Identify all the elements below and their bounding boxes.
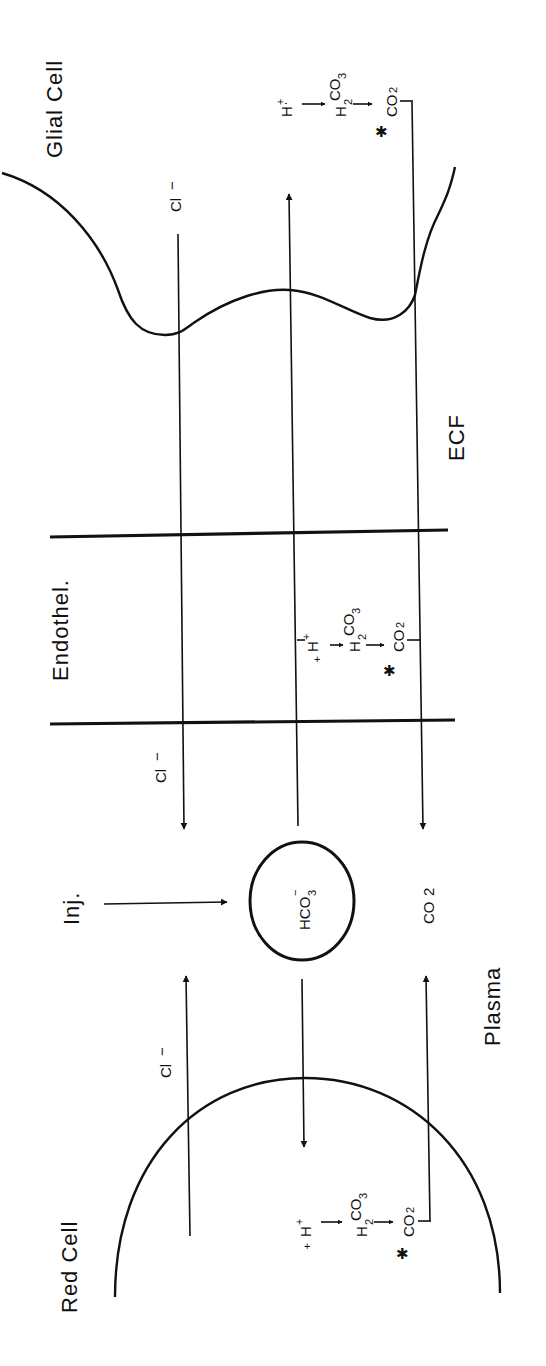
chloride-label-glial: Cl − xyxy=(163,181,184,212)
svg-text:Cl: Cl xyxy=(152,769,169,783)
red-cell-membrane xyxy=(115,1078,500,1297)
chloride-flux-glial-to-plasma xyxy=(178,234,184,829)
bicarbonate-flux-to-redcell xyxy=(302,979,304,1147)
svg-text:3: 3 xyxy=(306,890,318,896)
carbonic-anhydrase-marker: ✱ xyxy=(396,1245,409,1262)
redcell-reaction: H + + H 2 CO 3 CO 2 ✱ xyxy=(293,1193,417,1262)
svg-text:H: H xyxy=(332,106,349,117)
svg-text:−: − xyxy=(163,181,180,190)
label-red-cell: Red Cell xyxy=(57,1221,82,1313)
label-plasma: Plasma xyxy=(480,967,505,1046)
label-ecf: ECF xyxy=(444,414,469,461)
svg-text:2: 2 xyxy=(404,1207,416,1213)
chloride-flux-redcell-to-plasma xyxy=(186,976,190,1236)
bicarbonate-transport-diagram: Glial Cell ECF Endothel. Inj. Plasma Red… xyxy=(0,0,546,1366)
svg-text:3: 3 xyxy=(336,73,348,79)
svg-text:2: 2 xyxy=(387,87,399,93)
endothelium-membrane-glial-side xyxy=(50,530,448,537)
svg-text:CO: CO xyxy=(383,95,400,118)
svg-text:Cl: Cl xyxy=(167,198,184,212)
svg-text:CO: CO xyxy=(400,1215,417,1238)
svg-text:H: H xyxy=(278,106,295,117)
svg-text:H: H xyxy=(297,1226,314,1237)
svg-text:+: + xyxy=(274,99,286,105)
svg-text:−: − xyxy=(289,890,301,896)
svg-text:HCO: HCO xyxy=(296,897,313,930)
svg-text:2: 2 xyxy=(420,888,437,896)
svg-text:+: + xyxy=(304,1240,310,1252)
svg-text:2: 2 xyxy=(356,634,368,640)
svg-text:CO: CO xyxy=(326,79,343,102)
svg-text:CO: CO xyxy=(347,1199,364,1222)
svg-text:+: + xyxy=(293,1219,305,1225)
svg-text:2: 2 xyxy=(342,99,354,105)
bicarbonate-pool-label: HCO 3 − xyxy=(289,890,318,930)
injection-arrow xyxy=(104,902,227,904)
svg-text:+: + xyxy=(314,653,320,665)
endothelium-membrane-plasma-side xyxy=(50,720,455,724)
svg-text:2: 2 xyxy=(363,1219,375,1225)
svg-text:−: − xyxy=(153,1047,170,1056)
co2-flux-redcell-to-plasma xyxy=(426,976,430,1221)
label-glial-cell: Glial Cell xyxy=(42,60,67,158)
svg-text:CO: CO xyxy=(390,630,407,653)
svg-text:H: H xyxy=(353,1226,370,1237)
carbonic-anhydrase-marker: ✱ xyxy=(383,662,396,679)
svg-text:H: H xyxy=(304,641,321,652)
glial-cell-membrane xyxy=(2,167,455,335)
svg-text:Cl: Cl xyxy=(157,1064,174,1078)
svg-text:2: 2 xyxy=(394,622,406,628)
svg-text:3: 3 xyxy=(350,608,362,614)
svg-text:CO: CO xyxy=(420,902,437,925)
label-injection: Inj. xyxy=(59,892,84,925)
chloride-label-plasma-lower: Cl − xyxy=(153,1047,174,1078)
glial-reaction: H + H 2 CO 3 CO 2 ✱ xyxy=(274,73,400,140)
svg-text:3: 3 xyxy=(357,1193,369,1199)
svg-text:+: + xyxy=(300,634,312,640)
co2-label-plasma: CO 2 xyxy=(420,888,437,924)
svg-text:CO: CO xyxy=(340,614,357,637)
label-endothelium: Endothel. xyxy=(48,579,73,681)
svg-text:−: − xyxy=(148,752,165,761)
endothelial-reaction: H + + H 2 CO 3 CO 2 ✱ xyxy=(300,608,407,679)
carbonic-anhydrase-marker: ✱ xyxy=(375,123,388,140)
chloride-label-plasma-upper: Cl − xyxy=(148,752,169,783)
bicarbonate-flux-to-glial xyxy=(289,194,298,826)
svg-text:H: H xyxy=(346,641,363,652)
